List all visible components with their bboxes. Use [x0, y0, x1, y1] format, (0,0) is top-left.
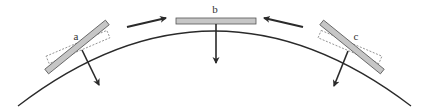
curved-surface-diagram: a b c	[0, 0, 428, 111]
converge-arrow-left	[127, 18, 166, 27]
force-arrow-a	[82, 50, 99, 85]
plate-c-label: c	[354, 30, 359, 42]
curved-surface-arc	[18, 31, 411, 106]
plate-b-label: b	[212, 3, 218, 15]
plate-a-label: a	[74, 30, 79, 42]
plate-c-bar	[320, 20, 384, 74]
plate-a-bar	[45, 20, 109, 74]
plate-c: c	[318, 20, 384, 86]
force-arrow-c	[334, 51, 348, 86]
plate-b-bar	[176, 18, 256, 24]
plate-a: a	[45, 20, 110, 85]
converge-arrow-right	[264, 18, 303, 27]
